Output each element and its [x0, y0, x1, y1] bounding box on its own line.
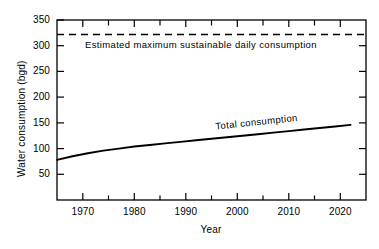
y-tick-label: 250 [8, 66, 50, 76]
threshold-annotation-label: Estimated maximum sustainable daily cons… [85, 39, 317, 50]
y-tick-label: 200 [8, 92, 50, 102]
y-axis-label: Water consumption (bgd) [16, 61, 27, 178]
total-consumption-line [57, 125, 351, 160]
y-tick-label: 350 [8, 15, 50, 25]
y-axis-ticks [57, 20, 64, 174]
y-axis-ticks-right [359, 46, 366, 175]
x-axis-ticks [83, 193, 341, 200]
y-tick-label: 150 [8, 118, 50, 128]
x-tick-label: 2010 [277, 207, 300, 217]
x-tick-label: 2000 [226, 207, 249, 217]
x-tick-label: 1980 [123, 207, 146, 217]
y-tick-label: 100 [8, 144, 50, 154]
chart-figure: 350 300 250 200 150 100 50 1970 1980 199… [0, 0, 379, 249]
y-tick-label: 50 [8, 169, 50, 179]
y-tick-label: 300 [8, 41, 50, 51]
x-axis-ticks-top [83, 20, 341, 27]
x-axis-label: Year [200, 224, 221, 235]
x-tick-label: 2020 [329, 207, 352, 217]
x-tick-label: 1970 [71, 207, 94, 217]
x-tick-label: 1990 [174, 207, 197, 217]
